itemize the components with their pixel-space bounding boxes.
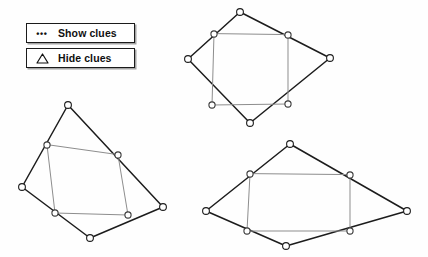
vertex-marker[interactable] bbox=[247, 120, 254, 127]
vertex-marker[interactable] bbox=[283, 243, 290, 250]
midpoint-marker[interactable] bbox=[347, 172, 353, 178]
midpoint-marker[interactable] bbox=[52, 210, 58, 216]
midpoint-marker[interactable] bbox=[44, 142, 50, 148]
inner-square bbox=[212, 34, 288, 105]
midpoint-marker[interactable] bbox=[285, 101, 291, 107]
vertex-marker[interactable] bbox=[203, 208, 210, 215]
show-clues-button[interactable]: ••• Show clues bbox=[26, 23, 135, 43]
vertex-marker[interactable] bbox=[287, 141, 294, 148]
midpoint-marker[interactable] bbox=[347, 228, 353, 234]
figure-bottom-right-quadrilateral bbox=[203, 141, 411, 250]
hide-clues-button[interactable]: Hide clues bbox=[26, 48, 135, 68]
vertex-marker[interactable] bbox=[327, 55, 334, 62]
midpoint-marker[interactable] bbox=[209, 102, 215, 108]
figure-top-quadrilateral bbox=[185, 9, 334, 127]
clue-button-group: ••• Show clues Hide clues bbox=[26, 23, 135, 68]
midpoint-marker[interactable] bbox=[125, 212, 131, 218]
midpoint-marker[interactable] bbox=[247, 171, 253, 177]
midpoint-marker[interactable] bbox=[211, 31, 217, 37]
hide-clues-label: Hide clues bbox=[58, 53, 112, 64]
vertex-marker[interactable] bbox=[185, 56, 192, 63]
inner-rectangle bbox=[247, 174, 350, 231]
midpoint-marker[interactable] bbox=[244, 228, 250, 234]
vertex-marker[interactable] bbox=[160, 204, 167, 211]
triangle-outline-icon bbox=[32, 51, 52, 66]
show-clues-label: Show clues bbox=[58, 28, 117, 39]
vertex-marker[interactable] bbox=[87, 235, 94, 242]
outer-quadrilateral bbox=[22, 105, 163, 238]
vertex-marker[interactable] bbox=[237, 9, 244, 16]
figure-bottom-left-quadrilateral bbox=[19, 102, 167, 242]
vertex-marker[interactable] bbox=[19, 184, 26, 191]
vertex-marker[interactable] bbox=[404, 208, 411, 215]
diagram-canvas: ••• Show clues Hide clues bbox=[0, 0, 428, 257]
vertex-marker[interactable] bbox=[65, 102, 72, 109]
midpoint-marker[interactable] bbox=[285, 32, 291, 38]
midpoint-marker[interactable] bbox=[115, 152, 121, 158]
three-dots-icon: ••• bbox=[32, 26, 52, 41]
